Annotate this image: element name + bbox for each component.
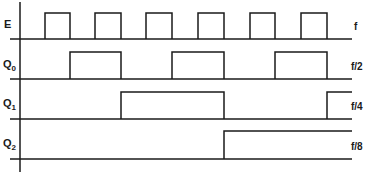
pulse: [146, 13, 172, 39]
signal-label-q0: Q0: [3, 58, 16, 73]
pulse: [95, 13, 121, 39]
pulse: [198, 13, 224, 39]
pulse: [250, 13, 275, 39]
frequency-label-f4: f/4: [351, 101, 363, 112]
pulse: [275, 52, 327, 79]
pulse: [45, 13, 70, 39]
signal-label-q1: Q1: [3, 97, 16, 112]
signal-label-e: E: [4, 18, 11, 30]
signal-label-q2: Q2: [3, 137, 16, 152]
pulse: [121, 92, 224, 119]
pulse: [327, 92, 352, 119]
frequency-label-f: f: [354, 21, 357, 32]
pulse: [172, 52, 224, 79]
pulse: [224, 131, 352, 159]
frequency-label-f8: f/8: [351, 141, 363, 152]
frequency-label-f2: f/2: [351, 61, 363, 72]
timing-diagram: [0, 0, 368, 178]
pulse: [301, 13, 327, 39]
pulse: [70, 52, 121, 79]
